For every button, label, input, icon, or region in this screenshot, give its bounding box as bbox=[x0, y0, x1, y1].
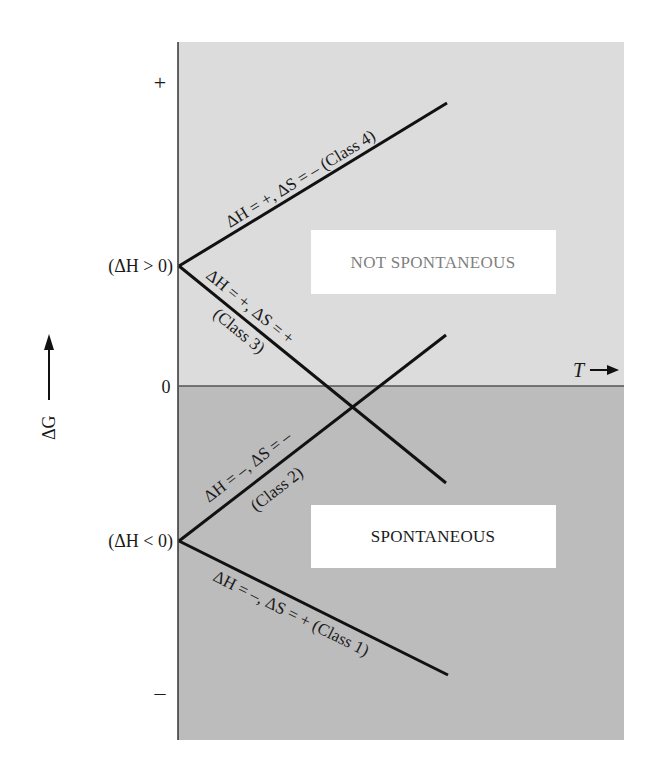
y-axis-label: ΔG bbox=[39, 415, 59, 440]
y-tick-zero: 0 bbox=[162, 377, 171, 397]
intercept-positive-label: (ΔH > 0) bbox=[108, 256, 173, 277]
x-axis-label: T bbox=[573, 359, 586, 381]
not-spontaneous-label: NOT SPONTANEOUS bbox=[351, 253, 516, 272]
y-tick-plus: + bbox=[154, 70, 166, 95]
arrow-up-icon bbox=[44, 334, 54, 350]
gibbs-diagram: NOT SPONTANEOUS SPONTANEOUS ΔH = +, ΔS =… bbox=[0, 0, 652, 769]
intercept-negative-label: (ΔH < 0) bbox=[108, 531, 173, 552]
spontaneous-label: SPONTANEOUS bbox=[371, 527, 496, 546]
y-tick-minus: – bbox=[154, 680, 167, 705]
